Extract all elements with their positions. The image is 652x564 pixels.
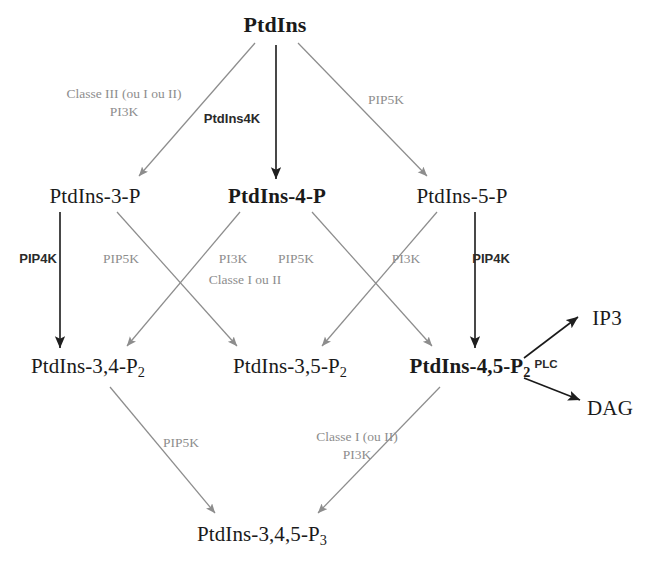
enzyme-label-pi3k-r: PI3K bbox=[392, 250, 421, 268]
enzyme-label-line1: PI3K bbox=[392, 251, 421, 266]
node-label: PtdIns-3-P bbox=[50, 184, 141, 208]
enzyme-label-classe1-m: Classe I ou II bbox=[209, 271, 281, 289]
enzyme-label-ptdins4k: PtdIns4K bbox=[204, 110, 260, 127]
enzyme-label-line1: PLC bbox=[535, 358, 558, 370]
enzyme-label-line1: PI3K bbox=[219, 251, 248, 266]
enzyme-label-pip4k-l: PIP4K bbox=[19, 250, 57, 267]
enzyme-label-line2: PI3K bbox=[316, 446, 397, 464]
enzyme-label-line1: PIP4K bbox=[19, 251, 57, 266]
node-ptdins5p: PtdIns-5-P bbox=[417, 186, 508, 207]
reaction-arrow bbox=[524, 317, 578, 358]
pathway-diagram: PtdInsPtdIns-3-PPtdIns-4-PPtdIns-5-PPtdI… bbox=[0, 0, 652, 564]
node-label: DAG bbox=[587, 396, 633, 420]
node-ptdins45p2: PtdIns-4,5-P2 bbox=[409, 356, 530, 379]
node-label: PtdIns-3,4,5-P bbox=[197, 522, 320, 546]
enzyme-label-pip4k-r: PIP4K bbox=[472, 250, 510, 267]
node-label: PtdIns bbox=[244, 12, 307, 37]
node-label: PtdIns-4,5-P bbox=[409, 354, 523, 378]
enzyme-label-classe3: Classe III (ou I ou II)PI3K bbox=[66, 85, 181, 121]
enzyme-label-line1: PIP5K bbox=[368, 92, 404, 107]
node-ptdins: PtdIns bbox=[244, 14, 307, 36]
reaction-arrow bbox=[312, 212, 432, 346]
node-ptdins35p2: PtdIns-3,5-P2 bbox=[233, 356, 347, 379]
node-label: PtdIns-3,4-P bbox=[31, 354, 138, 378]
enzyme-label-line1: PIP4K bbox=[472, 251, 510, 266]
enzyme-label-line1: Classe I (ou II) bbox=[316, 429, 397, 444]
node-dag: DAG bbox=[587, 398, 633, 419]
reaction-arrow bbox=[322, 212, 437, 346]
enzyme-label-pip5k-m: PIP5K bbox=[278, 250, 314, 268]
node-ptdins345p3: PtdIns-3,4,5-P3 bbox=[197, 524, 327, 547]
node-ip3: IP3 bbox=[592, 308, 621, 329]
enzyme-label-pip5k-top: PIP5K bbox=[368, 91, 404, 109]
enzyme-label-plc: PLC bbox=[535, 357, 558, 372]
enzyme-label-pip5k-b: PIP5K bbox=[163, 434, 199, 452]
enzyme-label-line1: PIP5K bbox=[278, 251, 314, 266]
enzyme-label-line1: Classe III (ou I ou II) bbox=[66, 86, 181, 101]
node-ptdins3p: PtdIns-3-P bbox=[50, 186, 141, 207]
reaction-arrow bbox=[298, 43, 427, 176]
node-label: PtdIns-4-P bbox=[228, 184, 326, 208]
node-ptdins4p: PtdIns-4-P bbox=[228, 186, 326, 207]
enzyme-label-pip5k-l: PIP5K bbox=[103, 250, 139, 268]
enzyme-label-line1: PIP5K bbox=[163, 435, 199, 450]
node-label-subscript: 2 bbox=[523, 364, 530, 380]
enzyme-label-line1: Classe I ou II bbox=[209, 272, 281, 287]
node-label: PtdIns-5-P bbox=[417, 184, 508, 208]
enzyme-label-line1: PtdIns4K bbox=[204, 111, 260, 126]
node-label: PtdIns-3,5-P bbox=[233, 354, 340, 378]
enzyme-label-line1: PIP5K bbox=[103, 251, 139, 266]
enzyme-label-pi3k-m1: PI3K bbox=[219, 250, 248, 268]
reaction-arrow bbox=[524, 378, 580, 400]
enzyme-label-classe1-b: Classe I (ou II)PI3K bbox=[316, 428, 397, 464]
node-ptdins34p2: PtdIns-3,4-P2 bbox=[31, 356, 145, 379]
enzyme-label-line2: PI3K bbox=[66, 103, 181, 121]
node-label-subscript: 2 bbox=[138, 364, 145, 380]
node-label-subscript: 2 bbox=[340, 364, 347, 380]
node-label: IP3 bbox=[592, 306, 621, 330]
node-label-subscript: 3 bbox=[320, 532, 327, 548]
